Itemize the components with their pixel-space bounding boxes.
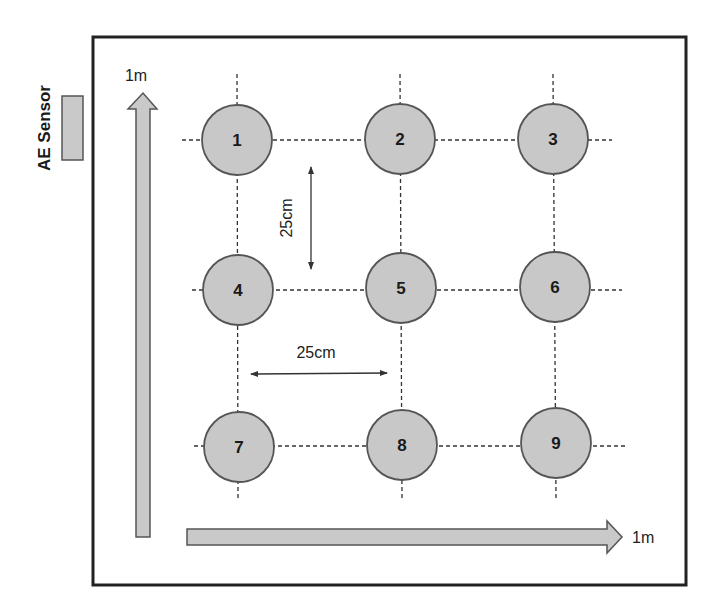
node-3-label: 3 (548, 130, 557, 149)
node-7: 7 (204, 412, 274, 482)
node-3: 3 (518, 104, 588, 174)
node-4: 4 (203, 255, 273, 325)
node-9: 9 (521, 408, 591, 478)
horizontal-axis-label: 1m (632, 529, 654, 546)
vertical-axis-arrow (128, 93, 157, 537)
node-5: 5 (366, 253, 436, 323)
node-9-label: 9 (551, 434, 560, 453)
node-8-label: 8 (397, 436, 406, 455)
node-1-label: 1 (232, 131, 241, 150)
node-6: 6 (520, 252, 590, 322)
horizontal-axis-arrow (187, 521, 622, 553)
node-7-label: 7 (234, 438, 243, 457)
node-6-label: 6 (550, 278, 559, 297)
vertical-axis-label: 1m (125, 67, 147, 84)
node-4-label: 4 (233, 281, 243, 300)
horizontal-spacing-arrow (251, 373, 387, 374)
horizontal-spacing-label: 25cm (296, 344, 335, 361)
node-2-label: 2 (395, 130, 404, 149)
node-5-label: 5 (396, 279, 405, 298)
node-2: 2 (365, 104, 435, 174)
ae-sensor (62, 96, 83, 160)
ae-sensor-label: AE Sensor (35, 85, 54, 171)
vertical-spacing-label: 25cm (278, 198, 295, 237)
node-8: 8 (367, 410, 437, 480)
node-1: 1 (202, 105, 272, 175)
sensor-layout-diagram: AE Sensor 1m 1m 25cm 25cm 1 2 3 4 5 (0, 0, 716, 609)
